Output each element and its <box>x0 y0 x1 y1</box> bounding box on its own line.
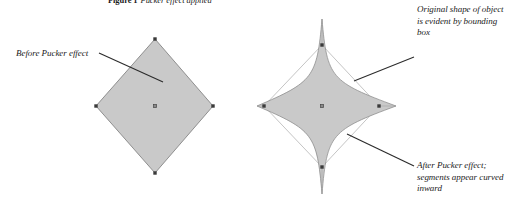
annotation-original-shape: Original shape of object is evident by b… <box>417 4 507 39</box>
star-anchor-top <box>320 43 323 46</box>
star-anchor-bottom <box>320 165 323 168</box>
star-anchor-right <box>377 104 380 107</box>
leader-line-after <box>347 134 414 166</box>
star-center-dot <box>321 105 323 107</box>
star-shape <box>257 19 396 194</box>
annotation-before-pucker: Before Pucker effect <box>16 48 108 60</box>
before-pucker-diamond <box>94 37 214 174</box>
annotation-after-pucker: After Pucker effect; segments appear cur… <box>417 160 507 195</box>
leader-line-original <box>354 57 414 81</box>
after-pucker-star-group <box>257 19 396 194</box>
anchor-point-right <box>211 104 214 107</box>
anchor-point-bottom <box>153 171 156 174</box>
star-anchor-left <box>262 104 265 107</box>
center-dot <box>154 105 156 107</box>
anchor-point-top <box>153 37 156 40</box>
anchor-point-left <box>94 104 97 107</box>
figure-panel: Figure 1Pucker effect applied <box>0 0 509 221</box>
